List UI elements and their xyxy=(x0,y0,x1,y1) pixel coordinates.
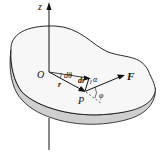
displacement-label: dr xyxy=(78,77,85,85)
angle-phi-label: φ xyxy=(99,92,103,100)
angle-alpha-label: α xyxy=(93,76,97,84)
force-label: F xyxy=(127,71,134,82)
z-axis-arrowhead xyxy=(47,2,52,10)
point-label: P xyxy=(78,96,84,106)
diagram-canvas: z O r dθ dr α F P φ xyxy=(0,0,165,163)
z-axis-label: z xyxy=(38,2,42,12)
position-vector-label: r xyxy=(58,81,61,89)
origin-label: O xyxy=(37,70,44,80)
angle-dtheta-label: dθ xyxy=(64,72,72,80)
